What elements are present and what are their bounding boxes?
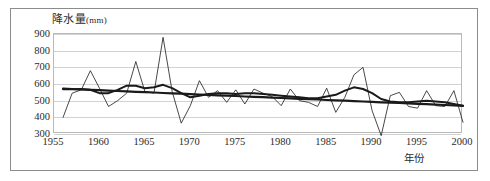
x-tick-1990: 1990 xyxy=(361,136,382,148)
data-series-group xyxy=(54,34,463,134)
chart-title: 降水量(mm) xyxy=(52,10,107,26)
y-tick-400: 400 xyxy=(34,111,50,122)
x-tick-1985: 1985 xyxy=(315,136,336,148)
y-tick-800: 800 xyxy=(34,45,50,56)
precipitation-chart-figure: 降水量(mm) 900800700600500400300 1955196019… xyxy=(0,0,490,181)
y-axis-tick-labels: 900800700600500400300 xyxy=(18,26,50,140)
x-tick-1975: 1975 xyxy=(224,136,245,148)
gridline-300 xyxy=(54,134,461,135)
x-tick-1965: 1965 xyxy=(133,136,154,148)
x-tick-2000: 2000 xyxy=(452,136,473,148)
y-tick-600: 600 xyxy=(34,78,50,89)
x-tick-1955: 1955 xyxy=(43,136,64,148)
x-tick-1970: 1970 xyxy=(179,136,200,148)
x-tick-1995: 1995 xyxy=(406,136,427,148)
chart-title-unit: (mm) xyxy=(86,15,107,25)
x-tick-1980: 1980 xyxy=(270,136,291,148)
chart-title-text: 降水量 xyxy=(52,13,86,25)
y-tick-900: 900 xyxy=(34,28,50,39)
plot-area xyxy=(53,33,462,133)
y-tick-700: 700 xyxy=(34,61,50,72)
x-axis-title: 年份 xyxy=(404,150,424,165)
y-tick-500: 500 xyxy=(34,95,50,106)
x-tick-1960: 1960 xyxy=(88,136,109,148)
series-thick-straight-trend-line xyxy=(63,89,463,106)
